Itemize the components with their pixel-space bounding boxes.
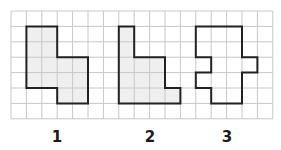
shape-label-3: 3 <box>222 128 232 146</box>
grid-diagram <box>0 0 281 150</box>
shape-label-1: 1 <box>52 128 62 146</box>
shape-label-2: 2 <box>145 128 155 146</box>
